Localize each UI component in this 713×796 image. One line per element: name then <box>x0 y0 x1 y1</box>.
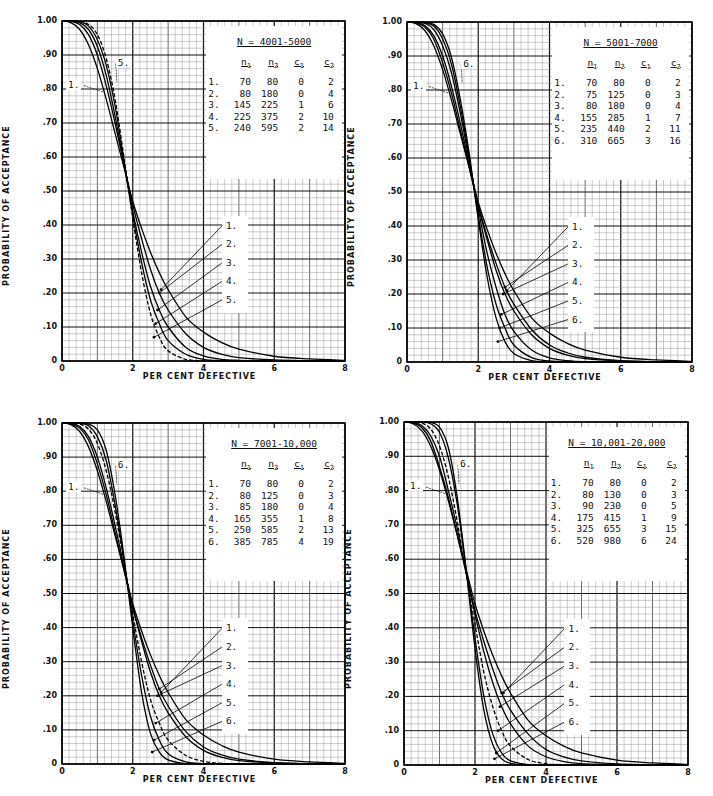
y-tick-label: .80 <box>373 486 399 495</box>
plan-n1: 80 <box>566 489 594 500</box>
plan-n2: 375 <box>250 111 278 122</box>
curve-callout-label: 3. <box>226 660 237 671</box>
plan-c2: 2 <box>649 477 677 488</box>
table-title: N = 5001-7000 <box>552 37 689 48</box>
curve-callout-1.: 1. <box>66 481 81 492</box>
plan-n2: 415 <box>593 512 621 523</box>
plan-n2: 180 <box>250 501 278 512</box>
plan-n2: 80 <box>250 76 278 87</box>
plan-c1: 3 <box>623 135 651 146</box>
x-tick-label: 8 <box>684 365 700 374</box>
plan-c2: 4 <box>306 88 334 99</box>
plan-c1: 0 <box>619 500 647 511</box>
y-tick-label: .60 <box>376 153 402 162</box>
x-tick-label: 6 <box>613 365 629 374</box>
y-tick-label: .90 <box>31 452 57 461</box>
table-header-c2: c2 <box>655 457 677 471</box>
plan-n2: 980 <box>593 535 621 546</box>
x-tick-label: 6 <box>609 768 625 777</box>
plan-c2: 15 <box>649 523 677 534</box>
y-tick-label: .60 <box>31 554 57 563</box>
plan-n1: 70 <box>566 477 594 488</box>
y-tick-label: 1.00 <box>31 16 57 25</box>
x-tick-label: 0 <box>396 768 412 777</box>
curve-callout-label: 1. <box>568 623 579 634</box>
y-tick-label: .40 <box>373 623 399 632</box>
table-title: N = 4001-5000 <box>206 36 342 47</box>
curve-callout-label: 2. <box>568 641 579 652</box>
plan-n2: 655 <box>593 523 621 534</box>
plan-c1: 6 <box>619 535 647 546</box>
plan-n1: 90 <box>566 500 594 511</box>
plan-n2: 80 <box>597 77 625 88</box>
plan-n1: 175 <box>566 512 594 523</box>
plan-c2: 3 <box>649 489 677 500</box>
plan-n1: 250 <box>223 524 251 535</box>
plan-n1: 70 <box>569 77 597 88</box>
x-tick-label: 6 <box>266 364 282 373</box>
curve-callout-6.: 6. <box>461 58 476 69</box>
plan-n1: 225 <box>223 111 251 122</box>
plan-c1: 0 <box>276 76 304 87</box>
curve-callout-label: 2. <box>226 238 237 249</box>
table-header-c1: c1 <box>282 458 304 472</box>
y-tick-label: .70 <box>31 118 57 127</box>
plan-table: N = 5001-7000n1n2c1c21.7080022.75125033.… <box>552 27 689 180</box>
table-header-c1: c1 <box>629 57 651 71</box>
plan-c2: 2 <box>653 77 681 88</box>
plan-n2: 230 <box>593 500 621 511</box>
plan-table: N = 4001-5000n1n2c1c21.7080022.80180043.… <box>206 26 342 179</box>
plan-table: N = 10,001-20,000n1n2c1c21.7080022.80130… <box>549 427 685 581</box>
plan-n1: 85 <box>223 501 251 512</box>
y-axis-label: PROBABILITY OF ACCEPTANCE <box>2 125 11 286</box>
plan-c2: 4 <box>306 501 334 512</box>
plan-n1: 310 <box>569 135 597 146</box>
y-tick-label: .50 <box>31 589 57 598</box>
plan-n1: 80 <box>223 88 251 99</box>
y-tick-label: .20 <box>31 288 57 297</box>
y-tick-label: .90 <box>376 51 402 60</box>
y-tick-label: 1.00 <box>31 418 57 427</box>
y-tick-label: .10 <box>376 323 402 332</box>
table-title: N = 7001-10,000 <box>206 438 342 449</box>
y-tick-label: .70 <box>373 520 399 529</box>
plan-n1: 165 <box>223 513 251 524</box>
plan-n2: 785 <box>250 536 278 547</box>
table-header-c2: c2 <box>659 57 681 71</box>
plan-n1: 155 <box>569 112 597 123</box>
curve-callout-label: 5. <box>568 697 579 708</box>
plan-n1: 145 <box>223 99 251 110</box>
y-tick-label: .70 <box>31 520 57 529</box>
curve-callout-label: 4. <box>226 275 237 286</box>
plan-c1: 1 <box>276 99 304 110</box>
plan-c1: 3 <box>619 523 647 534</box>
curve-callout-label: 1. <box>226 622 237 633</box>
y-tick-label: 1.00 <box>373 417 399 426</box>
plan-n1: 80 <box>223 490 251 501</box>
curve-callout-label: 4. <box>568 679 579 690</box>
curve-callout-label: 1. <box>226 220 237 231</box>
y-tick-label: .10 <box>373 726 399 735</box>
plan-c2: 2 <box>306 76 334 87</box>
curve-callout-label: 3. <box>226 257 237 268</box>
y-tick-label: .50 <box>373 589 399 598</box>
curve-callout-label: 4. <box>572 276 583 287</box>
plan-c2: 7 <box>653 112 681 123</box>
table-header-c1: c1 <box>282 56 304 70</box>
y-tick-label: .90 <box>373 451 399 460</box>
plan-c1: 1 <box>276 513 304 524</box>
y-tick-label: .80 <box>31 84 57 93</box>
plan-c2: 19 <box>306 536 334 547</box>
plan-c2: 9 <box>649 512 677 523</box>
y-tick-label: .40 <box>31 623 57 632</box>
table-header-n1: n1 <box>229 56 251 70</box>
curve-callout-label: 6. <box>572 314 583 325</box>
plan-n1: 80 <box>569 100 597 111</box>
curve-callout-label: 5. <box>226 294 237 305</box>
y-tick-label: .20 <box>31 691 57 700</box>
plan-c2: 14 <box>306 122 334 133</box>
plan-c1: 1 <box>619 512 647 523</box>
curve-callout-6.: 6. <box>458 458 473 469</box>
plan-c2: 2 <box>306 478 334 489</box>
plan-n1: 75 <box>569 89 597 100</box>
